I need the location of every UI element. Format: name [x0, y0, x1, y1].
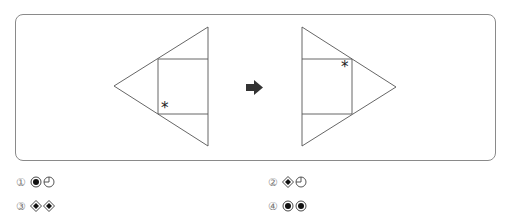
figure-diagram: * * [0, 0, 506, 222]
right-arrow-icon [246, 80, 263, 95]
left-asterisk: * [161, 99, 169, 117]
option-3-number: ③ [16, 200, 26, 213]
right-asterisk: * [341, 58, 349, 76]
option-2-number: ② [268, 176, 278, 189]
right-figure [302, 27, 396, 146]
option-1-symbols [31, 177, 54, 187]
option-4-symbols [283, 201, 306, 211]
option-2[interactable]: ② [268, 175, 284, 189]
option-4-number: ④ [268, 200, 278, 213]
left-figure [114, 27, 208, 146]
option-2-symbols [283, 177, 307, 188]
option-3-symbols [31, 201, 55, 212]
option-3[interactable]: ③ [16, 199, 32, 213]
option-1[interactable]: ① [16, 175, 32, 189]
option-1-number: ① [16, 176, 26, 189]
option-4[interactable]: ④ [268, 199, 284, 213]
